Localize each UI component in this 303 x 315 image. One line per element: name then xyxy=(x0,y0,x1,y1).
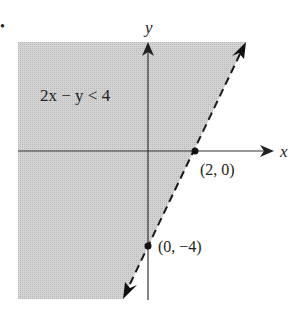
x-axis-label: x xyxy=(279,142,288,161)
bullet: • xyxy=(0,19,5,34)
point-label-0-neg4: (0, −4) xyxy=(158,238,202,256)
point-2-0 xyxy=(192,148,199,155)
graph: • y x 2x − y < 4 (2, 0) (0, −4) xyxy=(0,0,303,315)
point-label-2-0: (2, 0) xyxy=(200,161,235,179)
point-0-neg4 xyxy=(145,243,152,250)
inequality-label: 2x − y < 4 xyxy=(40,86,111,105)
line-bottom-arrow-icon xyxy=(123,282,137,299)
y-axis-label: y xyxy=(143,18,153,37)
